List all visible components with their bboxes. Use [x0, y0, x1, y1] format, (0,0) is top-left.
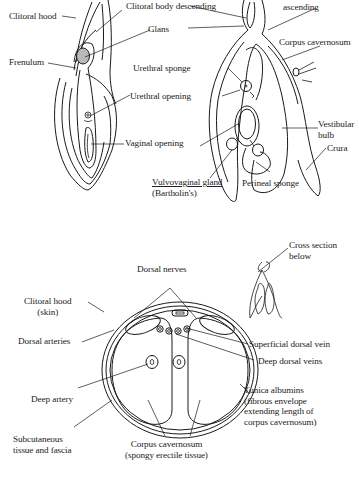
label-subcutaneous-tissue: Subcutaneous tissue and fascia [13, 434, 72, 455]
label-vestibular-bulb-line2: bulb [318, 130, 354, 141]
label-tunica-line4: corpus cavernosum) [244, 417, 316, 428]
label-cross-section-locator: Cross section below [289, 240, 337, 261]
label-cross-section-line2: below [289, 251, 337, 262]
label-corpus-cav-line1: Corpus cavernosum [125, 439, 208, 450]
label-clitoral-hood-skin-line1: Clitoral hood [24, 296, 71, 307]
label-glans: Glans [148, 24, 169, 35]
label-corpus-cavernosum: Corpus cavernosum [279, 37, 351, 48]
label-frenulum: Frenulum [9, 57, 44, 68]
label-vestibular-bulb: Vestibular bulb [318, 119, 354, 140]
cross-section-drawing [74, 288, 258, 438]
label-vulvovaginal-gland-line2: (Bartholin's) [152, 188, 222, 199]
cross-section-locator-drawing [250, 248, 288, 318]
label-deep-dorsal-veins: Deep dorsal veins [258, 356, 322, 367]
label-corpus-cav-line2: (spongy erectile tissue) [125, 450, 208, 461]
label-tunica-line1: Tunica albumins [244, 385, 316, 396]
label-clitoral-hood-skin: Clitoral hood (skin) [24, 296, 71, 317]
label-urethral-opening: Urethral opening [130, 91, 191, 102]
label-deep-artery: Deep artery [31, 394, 73, 405]
internal-structure-drawing [188, 0, 326, 201]
label-clitoral-body-descending: Clitoral body descending [126, 1, 216, 12]
label-tunica-line2: (fibrous envelope [244, 396, 316, 407]
label-vulvovaginal-gland-line1: Vulvovaginal gland [152, 177, 222, 188]
label-subcutaneous-line2: tissue and fascia [13, 445, 72, 456]
label-vaginal-opening: Vaginal opening [125, 138, 183, 149]
label-clitoral-hood: Clitoral hood [9, 11, 56, 22]
label-urethral-sponge: Urethral sponge [133, 63, 190, 74]
label-vulvovaginal-gland: Vulvovaginal gland (Bartholin's) [152, 177, 222, 198]
label-superficial-dorsal-vein: Superficial dorsal vein [249, 339, 330, 350]
label-dorsal-arteries: Dorsal arteries [18, 336, 70, 347]
label-perineal-sponge: Perineal sponge [242, 178, 299, 189]
label-vestibular-bulb-line1: Vestibular [318, 119, 354, 130]
label-crura: Crura [327, 143, 347, 154]
label-tunica-line3: extending length of [244, 406, 316, 417]
anatomy-diagram: Clitoral hood Glans Frenulum Urethral op… [0, 0, 359, 480]
label-clitoral-body-ascending-line2: ascending [283, 2, 319, 13]
label-corpus-cavernosum-spongy: Corpus cavernosum (spongy erectile tissu… [125, 439, 208, 460]
label-cross-section-line1: Cross section [289, 240, 337, 251]
label-dorsal-nerves: Dorsal nerves [137, 264, 186, 275]
label-clitoral-hood-skin-line2: (skin) [24, 307, 71, 318]
label-subcutaneous-line1: Subcutaneous [13, 434, 72, 445]
label-tunica-albumins: Tunica albumins (fibrous envelope extend… [244, 385, 316, 427]
